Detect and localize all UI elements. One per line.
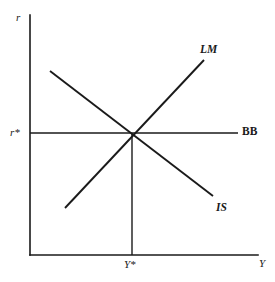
lm-curve-label: LM (200, 44, 217, 56)
x-axis-label: Y (259, 258, 265, 269)
y-tick-label-r-star: r* (10, 127, 20, 138)
y-axis-label: r (16, 12, 20, 23)
lm-curve (65, 60, 204, 208)
x-tick-label-y-star: Y* (124, 259, 136, 270)
diagram-canvas (0, 0, 275, 282)
is-curve-label: IS (216, 202, 227, 214)
is-lm-bb-figure: r Y r* Y* LM IS BB (0, 0, 275, 282)
bb-curve-label: BB (242, 126, 257, 138)
